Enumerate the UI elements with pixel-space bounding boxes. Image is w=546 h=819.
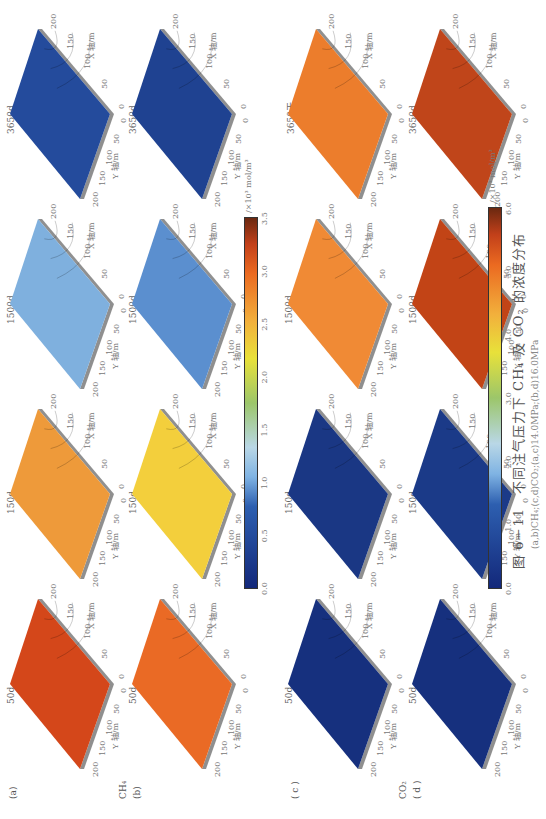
svg-text:0: 0: [239, 104, 248, 109]
svg-text:150: 150: [468, 224, 477, 239]
svg-text:Y 轴/m: Y 轴/m: [232, 532, 242, 560]
panel-c-3650d: 3650天050100150200200150100500X 轴/mY 轴/m: [296, 19, 416, 209]
svg-text:50: 50: [222, 79, 231, 89]
svg-text:150: 150: [344, 34, 353, 49]
panel-a-150d: 150d050100150200200150100500X 轴/mY 轴/m: [18, 399, 138, 589]
svg-text:50: 50: [222, 649, 231, 659]
svg-text:200: 200: [327, 14, 336, 29]
colorbar-tick: 0.0: [260, 582, 269, 595]
colorbar-tick: 1.5: [260, 424, 269, 437]
svg-text:0: 0: [519, 104, 528, 109]
svg-text:50: 50: [378, 269, 387, 279]
svg-text:150: 150: [188, 414, 197, 429]
svg-text:0: 0: [117, 484, 126, 489]
svg-text:150: 150: [66, 414, 75, 429]
svg-text:X 轴/m: X 轴/m: [364, 222, 374, 249]
svg-text:50: 50: [234, 514, 243, 524]
colorbar-tick: 6.0: [504, 202, 513, 215]
svg-text:50: 50: [378, 79, 387, 89]
svg-text:Y 轴/m: Y 轴/m: [512, 152, 522, 180]
figure-page: (a) (b) CH₄ ( c ) ( d ) CO₂ 50d050100150…: [0, 0, 546, 819]
svg-text:50: 50: [100, 459, 109, 469]
svg-text:50: 50: [112, 704, 121, 714]
svg-text:X 轴/m: X 轴/m: [208, 222, 218, 249]
svg-text:50: 50: [112, 324, 121, 334]
svg-text:X 轴/m: X 轴/m: [364, 412, 374, 439]
svg-text:150: 150: [220, 171, 229, 186]
svg-text:50: 50: [100, 269, 109, 279]
svg-text:Y 轴/m: Y 轴/m: [512, 722, 522, 750]
svg-text:0: 0: [117, 674, 126, 679]
svg-text:Y 轴/m: Y 轴/m: [110, 152, 120, 180]
svg-text:50: 50: [378, 459, 387, 469]
svg-text:0: 0: [117, 294, 126, 299]
row-label-b: (b): [132, 786, 142, 799]
svg-text:200: 200: [49, 14, 58, 29]
row-species-d: CO₂: [398, 781, 408, 799]
svg-text:150: 150: [344, 224, 353, 239]
row-label-d: ( d ): [412, 780, 422, 799]
row-label-c: ( c ): [290, 781, 300, 799]
svg-text:200: 200: [451, 14, 460, 29]
svg-text:0: 0: [241, 688, 250, 693]
svg-text:150: 150: [66, 604, 75, 619]
colorbar-ch4: [244, 217, 258, 589]
svg-text:150: 150: [376, 551, 385, 566]
svg-text:150: 150: [468, 604, 477, 619]
colorbar-tick: 3.0: [260, 265, 269, 278]
svg-text:Y 轴/m: Y 轴/m: [110, 342, 120, 370]
row-label-a: (a): [8, 787, 18, 799]
svg-text:X 轴/m: X 轴/m: [86, 222, 96, 249]
svg-text:150: 150: [66, 224, 75, 239]
svg-text:200: 200: [369, 382, 378, 397]
svg-text:200: 200: [91, 382, 100, 397]
svg-text:200: 200: [91, 192, 100, 207]
svg-text:0: 0: [397, 688, 406, 693]
svg-text:150: 150: [344, 604, 353, 619]
svg-text:50: 50: [100, 79, 109, 89]
panel-c-150d: 150d050100150200200150100500X 轴/mY 轴/m: [296, 399, 416, 589]
colorbar-co2: [488, 207, 502, 589]
svg-text:200: 200: [213, 382, 222, 397]
svg-text:200: 200: [213, 762, 222, 777]
svg-text:Y 轴/m: Y 轴/m: [388, 152, 398, 180]
svg-text:X 轴/m: X 轴/m: [364, 32, 374, 59]
svg-text:50: 50: [378, 649, 387, 659]
svg-text:0: 0: [119, 118, 128, 123]
svg-text:50: 50: [112, 514, 121, 524]
svg-text:150: 150: [344, 414, 353, 429]
colorbar-tick: 0.0: [504, 582, 513, 595]
colorbar-tick: 0.5: [260, 529, 269, 542]
svg-text:Y 轴/m: Y 轴/m: [388, 722, 398, 750]
svg-text:0: 0: [241, 118, 250, 123]
panel-a-3650d: 3650d050100150200200150100500X 轴/mY 轴/m: [18, 19, 138, 209]
colorbar-ch4-unit: /×10³ mol/m³: [244, 159, 253, 213]
svg-text:50: 50: [100, 649, 109, 659]
svg-text:150: 150: [98, 741, 107, 756]
colorbar-tick: 1.0: [260, 477, 269, 490]
svg-text:0: 0: [395, 674, 404, 679]
svg-text:0: 0: [117, 104, 126, 109]
svg-text:X 轴/m: X 轴/m: [488, 32, 498, 59]
svg-text:0: 0: [521, 118, 530, 123]
svg-text:200: 200: [171, 14, 180, 29]
colorbar-tick: 3.5: [260, 212, 269, 225]
svg-text:0: 0: [395, 294, 404, 299]
panel-a-1500d: 1500d050100150200200150100500X 轴/mY 轴/m: [18, 209, 138, 399]
svg-text:150: 150: [98, 171, 107, 186]
figure-subcaption: (a,b)CH₄;(c,d)CO₂;(a,c)14.0MPa;(b,d)16.0…: [530, 340, 540, 549]
svg-text:50: 50: [234, 134, 243, 144]
figure-caption: 图 6－11 不同注气压力下 CH₄ 及 CO₂ 的浓度分布: [508, 233, 527, 569]
svg-text:50: 50: [514, 134, 523, 144]
svg-text:200: 200: [213, 572, 222, 587]
svg-text:50: 50: [390, 514, 399, 524]
svg-text:50: 50: [514, 704, 523, 714]
svg-text:0: 0: [397, 498, 406, 503]
panel-c-50d: 50d050100150200200150100500X 轴/mY 轴/m: [296, 589, 416, 779]
svg-text:0: 0: [519, 674, 528, 679]
svg-text:150: 150: [500, 741, 509, 756]
svg-text:150: 150: [98, 361, 107, 376]
svg-text:X 轴/m: X 轴/m: [208, 32, 218, 59]
svg-text:0: 0: [521, 688, 530, 693]
svg-text:Y 轴/m: Y 轴/m: [388, 532, 398, 560]
